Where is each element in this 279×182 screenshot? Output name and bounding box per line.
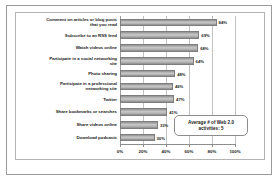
category-label-line: Share bookmarks or searches xyxy=(25,109,117,114)
bar[interactable] xyxy=(120,134,155,142)
category-label: Twitter xyxy=(25,97,117,102)
x-tick-label-0: 0% xyxy=(117,149,123,154)
bar-track: 46% xyxy=(120,80,264,93)
chart-row: Participate in a professionalnetworking … xyxy=(16,80,264,93)
chart-row: Subscribe to an RSS feed69% xyxy=(16,29,264,42)
category-label-line: networking site xyxy=(25,86,117,91)
category-label-line: Download podcasts xyxy=(25,135,117,140)
annotation-line: activities: 5 xyxy=(188,126,234,132)
bar-track: 69% xyxy=(120,29,264,42)
x-tick-mark-4 xyxy=(212,144,213,147)
category-label-line: Share videos online xyxy=(25,122,117,127)
bar-value-label: 41% xyxy=(169,109,177,114)
category-label: Participate in a social networkingsite xyxy=(25,56,117,66)
bar[interactable] xyxy=(120,19,217,27)
category-label-line: Twitter xyxy=(25,97,117,102)
category-label-line: Watch videos online xyxy=(25,45,117,50)
bar-value-label: 64% xyxy=(196,58,204,63)
chart-row: Twitter47% xyxy=(16,93,264,106)
x-tick-label-5: 100% xyxy=(229,149,240,154)
x-tick-mark-5 xyxy=(235,144,236,147)
x-tick-label-1: 20% xyxy=(139,149,148,154)
chart-figure: Comment on articles or blog poststhat yo… xyxy=(6,5,272,175)
category-label-line: site xyxy=(25,61,117,66)
x-tick-mark-1 xyxy=(143,144,144,147)
bar-value-label: 69% xyxy=(201,33,209,38)
bar-value-label: 68% xyxy=(200,45,208,50)
chart-plot-area: Comment on articles or blog poststhat yo… xyxy=(15,12,265,160)
category-label: Comment on articles or blog poststhat yo… xyxy=(25,17,117,27)
bar[interactable] xyxy=(120,57,194,65)
category-label-line: Subscribe to an RSS feed xyxy=(25,33,117,38)
x-tick-label-2: 40% xyxy=(162,149,171,154)
category-label: Photo sharing xyxy=(25,71,117,76)
category-label: Watch videos online xyxy=(25,45,117,50)
x-tick-mark-0 xyxy=(120,144,121,147)
bar[interactable] xyxy=(120,108,167,116)
bar-value-label: 30% xyxy=(157,135,165,140)
chart-row: Photo sharing48% xyxy=(16,67,264,80)
bar-value-label: 48% xyxy=(177,71,185,76)
chart-row: Participate in a social networkingsite64… xyxy=(16,54,264,67)
bar-track: 47% xyxy=(120,93,264,106)
x-tick-label-3: 60% xyxy=(185,149,194,154)
bar[interactable] xyxy=(120,70,175,78)
x-axis-line xyxy=(120,144,235,145)
bar[interactable] xyxy=(120,121,158,129)
bar-track: 68% xyxy=(120,42,264,55)
category-label: Download podcasts xyxy=(25,135,117,140)
category-label-line: that you read xyxy=(25,22,117,27)
category-label: Share videos online xyxy=(25,122,117,127)
category-label-line: Photo sharing xyxy=(25,71,117,76)
bar-track: 48% xyxy=(120,67,264,80)
annotation-line: Average # of Web 2.0 xyxy=(188,120,234,126)
category-label: Participate in a professionalnetworking … xyxy=(25,81,117,91)
category-label: Subscribe to an RSS feed xyxy=(25,33,117,38)
average-activities-annotation: Average # of Web 2.0activities: 5 xyxy=(174,115,248,136)
chart-row: Watch videos online68% xyxy=(16,42,264,55)
x-tick-mark-3 xyxy=(189,144,190,147)
bar[interactable] xyxy=(120,95,174,103)
bar-value-label: 33% xyxy=(160,122,168,127)
bar-value-label: 47% xyxy=(176,97,184,102)
bar-track: 64% xyxy=(120,54,264,67)
bar[interactable] xyxy=(120,83,173,91)
bar-value-label: 84% xyxy=(219,20,227,25)
chart-row: Comment on articles or blog poststhat yo… xyxy=(16,16,264,29)
x-tick-label-4: 80% xyxy=(208,149,217,154)
x-tick-mark-2 xyxy=(166,144,167,147)
annotation-text: Average # of Web 2.0activities: 5 xyxy=(188,120,234,132)
bar[interactable] xyxy=(120,44,198,52)
bar-track: 84% xyxy=(120,16,264,29)
bar[interactable] xyxy=(120,31,199,39)
bar-value-label: 46% xyxy=(175,84,183,89)
category-label: Share bookmarks or searches xyxy=(25,109,117,114)
